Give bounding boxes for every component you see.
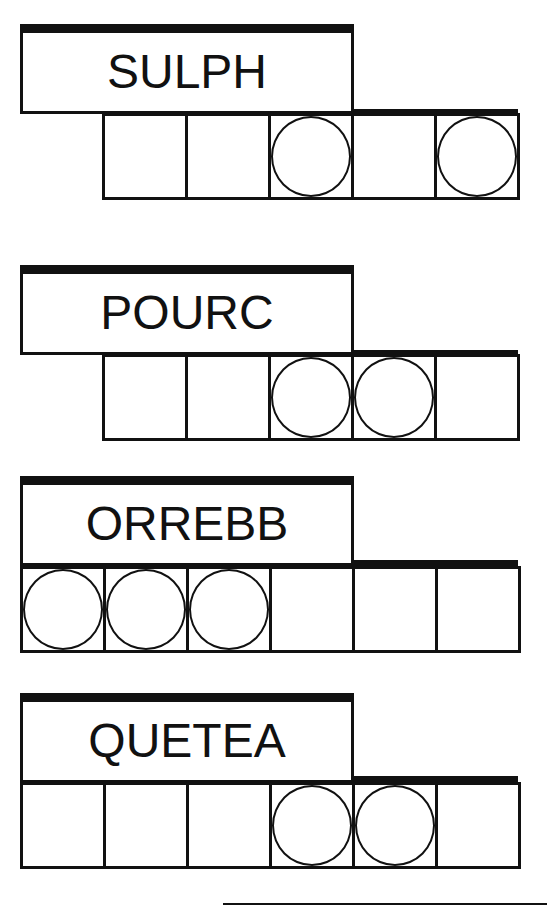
scrambled-word-box: QUETEA — [20, 693, 354, 783]
divider-line — [223, 903, 547, 905]
answer-cell-2[interactable] — [188, 354, 271, 441]
scrambled-word: QUETEA — [88, 717, 285, 765]
scrambled-word: ORREBB — [86, 500, 289, 548]
answer-cell-5-circled[interactable] — [437, 113, 520, 200]
answer-cell-4-circled[interactable] — [354, 354, 437, 441]
answer-cells — [20, 566, 521, 650]
answer-cell-1-circled[interactable] — [20, 566, 106, 653]
scrambled-word: SULPH — [107, 48, 267, 96]
answer-cell-3-circled[interactable] — [271, 354, 354, 441]
answer-cell-3-circled[interactable] — [271, 113, 354, 200]
scrambled-word-box: ORREBB — [20, 476, 354, 566]
answer-cells — [20, 782, 521, 866]
answer-cell-6[interactable] — [438, 782, 521, 869]
answer-cell-4[interactable] — [272, 566, 355, 653]
answer-cell-2[interactable] — [188, 113, 271, 200]
scrambled-word: POURC — [100, 289, 273, 337]
answer-cell-1[interactable] — [102, 354, 188, 441]
answer-cell-3[interactable] — [189, 782, 272, 869]
answer-cell-2[interactable] — [106, 782, 189, 869]
answer-cells — [102, 354, 520, 438]
scrambled-word-box: SULPH — [20, 24, 354, 114]
answer-cell-5[interactable] — [355, 566, 438, 653]
answer-cell-2-circled[interactable] — [106, 566, 189, 653]
answer-cell-1[interactable] — [20, 782, 106, 869]
answer-cells — [102, 113, 520, 197]
answer-cell-4-circled[interactable] — [272, 782, 355, 869]
answer-cell-5[interactable] — [437, 354, 520, 441]
answer-cell-3-circled[interactable] — [189, 566, 272, 653]
answer-cell-4[interactable] — [354, 113, 437, 200]
answer-cell-5-circled[interactable] — [355, 782, 438, 869]
answer-cell-6[interactable] — [438, 566, 521, 653]
answer-cell-1[interactable] — [102, 113, 188, 200]
scrambled-word-box: POURC — [20, 265, 354, 355]
